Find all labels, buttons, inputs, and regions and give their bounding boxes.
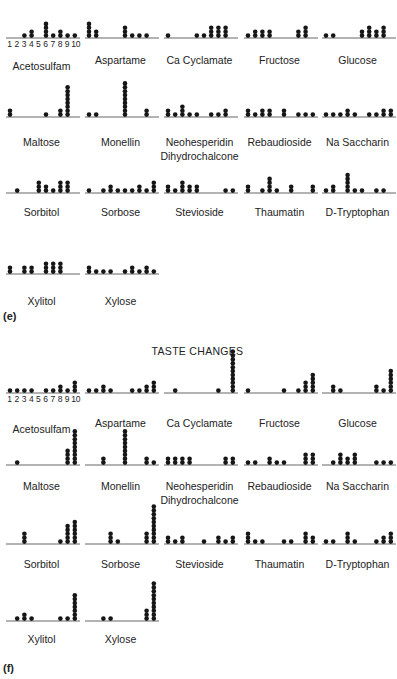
dot-mark xyxy=(94,29,99,34)
chart-label: Na Saccharin xyxy=(318,479,397,493)
dot-mark xyxy=(331,384,336,389)
dot-mark xyxy=(101,384,106,389)
dot-mark xyxy=(173,388,178,393)
chart-label: Thaumatin xyxy=(240,205,319,219)
dot-mark xyxy=(381,108,386,113)
dot-mark xyxy=(180,535,185,540)
dot-mark xyxy=(331,112,336,117)
dot-mark xyxy=(389,460,394,465)
chart-label: Xylose xyxy=(81,294,160,308)
chart-label: Sorbitol xyxy=(2,557,81,571)
dot-mark xyxy=(94,112,99,117)
dot-mark xyxy=(209,26,214,31)
dot-mark xyxy=(187,184,192,189)
dot-mark xyxy=(260,539,265,544)
dot-mark xyxy=(389,108,394,113)
dot-mark xyxy=(108,184,113,189)
dot-mark xyxy=(51,188,56,193)
dot-mark xyxy=(65,181,70,186)
dot-mark xyxy=(267,29,272,34)
x-tick-label: 5 xyxy=(35,39,42,49)
dot-mark xyxy=(8,265,13,270)
chart-label: Neohesperidin Dihydrochalcone xyxy=(160,135,239,163)
dot-mark xyxy=(275,188,280,193)
dot-plot xyxy=(81,335,160,336)
dot-mark xyxy=(166,535,171,540)
dot-mark xyxy=(144,456,149,461)
dot-mark xyxy=(58,384,63,389)
dot-mark xyxy=(22,612,27,617)
dot-plot xyxy=(81,0,160,1)
dot-mark xyxy=(324,188,329,193)
chart-label: Rebaudioside xyxy=(240,479,319,493)
dot-mark xyxy=(223,456,228,461)
dot-mark xyxy=(303,26,308,31)
dot-mark xyxy=(303,453,308,458)
dot-mark xyxy=(166,184,171,189)
dot-mark xyxy=(311,373,316,378)
dot-mark xyxy=(116,188,121,193)
dot-plot xyxy=(160,335,239,336)
dot-mark xyxy=(180,105,185,110)
dot-mark xyxy=(324,539,329,544)
dot-plot xyxy=(240,0,319,1)
dot-mark xyxy=(296,388,301,393)
dot-mark xyxy=(8,108,13,113)
dot-mark xyxy=(144,108,149,113)
dot-mark xyxy=(152,181,157,186)
dot-mark xyxy=(15,188,20,193)
x-tick-label: 8 xyxy=(56,394,63,404)
dot-mark xyxy=(289,539,294,544)
chart-label: Xylitol xyxy=(2,632,81,646)
dot-mark xyxy=(166,33,171,38)
dot-mark xyxy=(15,616,20,621)
dot-mark xyxy=(15,460,20,465)
x-tick-label: 7 xyxy=(49,39,56,49)
chart-label: Xylose xyxy=(81,632,160,646)
dot-mark xyxy=(282,460,287,465)
dot-mark xyxy=(73,381,78,386)
dot-mark xyxy=(108,269,113,274)
dot-mark xyxy=(331,539,336,544)
dot-mark xyxy=(180,456,185,461)
chart-label: Rebaudioside xyxy=(240,135,319,149)
dot-mark xyxy=(173,539,178,544)
dot-mark xyxy=(289,184,294,189)
dot-mark xyxy=(144,33,149,38)
x-tick-label: 9 xyxy=(64,394,71,404)
dot-mark xyxy=(166,108,171,113)
dot-mark xyxy=(152,504,157,509)
dot-mark xyxy=(65,616,70,621)
x-tick-label: 2 xyxy=(13,394,20,404)
dot-mark xyxy=(223,26,228,31)
chart-label: Glucose xyxy=(318,416,397,430)
dot-mark xyxy=(123,269,128,274)
dot-mark xyxy=(267,456,272,461)
dot-mark xyxy=(374,112,379,117)
dot-plot xyxy=(240,335,319,336)
dot-mark xyxy=(44,112,49,117)
dot-mark xyxy=(73,33,78,38)
dot-mark xyxy=(324,33,329,38)
dot-mark xyxy=(216,535,221,540)
dot-mark xyxy=(108,616,113,621)
dot-mark xyxy=(389,369,394,374)
dot-mark xyxy=(101,269,106,274)
dot-plot xyxy=(160,0,239,1)
dot-mark xyxy=(195,184,200,189)
panel-e: 12345678910AcetosulfamAspartameCa Cyclam… xyxy=(0,0,395,335)
dot-mark xyxy=(58,539,63,544)
dot-mark xyxy=(231,456,236,461)
x-tick-label: 10 xyxy=(71,39,81,49)
dot-mark xyxy=(209,112,214,117)
dot-mark xyxy=(8,388,13,393)
dot-mark xyxy=(73,429,78,434)
dot-mark xyxy=(246,184,251,189)
chart-label: D-Tryptophan xyxy=(318,557,397,571)
chart-label: Maltose xyxy=(2,135,81,149)
x-tick-label: 3 xyxy=(20,394,27,404)
dot-mark xyxy=(303,381,308,386)
dot-mark xyxy=(73,593,78,598)
dot-mark xyxy=(324,112,329,117)
x-tick-label: 6 xyxy=(42,394,49,404)
